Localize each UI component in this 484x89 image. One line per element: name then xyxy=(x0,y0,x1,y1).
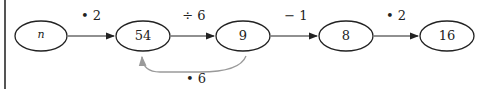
node-label: 54 xyxy=(113,28,173,43)
edge-label: ÷ 6 xyxy=(174,8,214,23)
edge-label: − 1 xyxy=(276,8,316,23)
edge-label: • 6 xyxy=(176,71,216,86)
node-label: n xyxy=(11,28,71,41)
arrow-9-54-back xyxy=(142,56,246,72)
node-label: 16 xyxy=(417,28,477,43)
edge-label: • 2 xyxy=(376,8,416,23)
node-label: 8 xyxy=(316,28,376,43)
edge-label: • 2 xyxy=(71,8,111,23)
node-label: 9 xyxy=(213,28,273,43)
